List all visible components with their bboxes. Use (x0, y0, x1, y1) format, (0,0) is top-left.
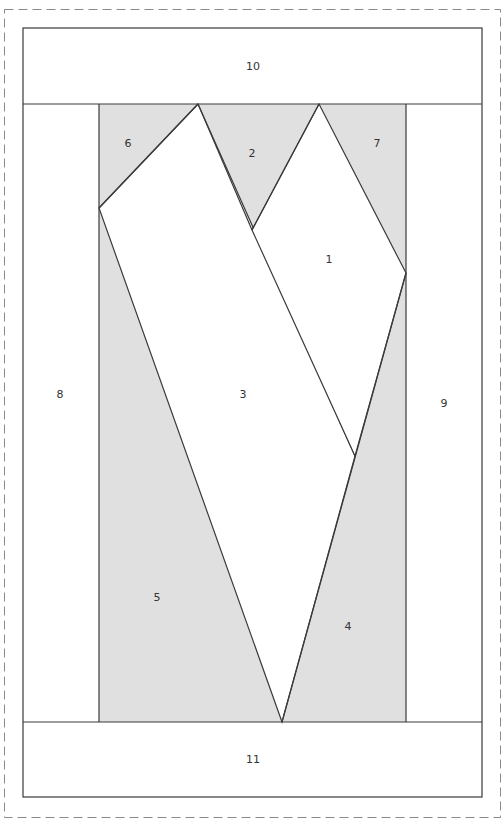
piece-label-4: 4 (345, 621, 352, 632)
piece-label-1: 1 (326, 254, 333, 265)
piece-label-9: 9 (441, 398, 448, 409)
piece-label-6: 6 (125, 138, 132, 149)
piece-label-10: 10 (246, 61, 260, 72)
piece-label-3: 3 (240, 389, 247, 400)
piece-label-7: 7 (374, 138, 381, 149)
piece-label-2: 2 (249, 148, 256, 159)
piece-label-8: 8 (57, 389, 64, 400)
pattern-diagram (0, 0, 504, 829)
piece-label-11: 11 (246, 754, 260, 765)
piece-label-5: 5 (154, 592, 161, 603)
